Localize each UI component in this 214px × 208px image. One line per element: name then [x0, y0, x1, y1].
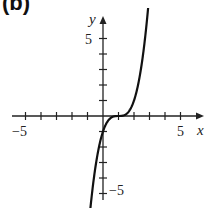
y-tick-label-neg5: −5: [109, 183, 124, 198]
curve: [90, 8, 148, 208]
cubic-plot: −5 5 x 5 −5 y: [0, 0, 214, 208]
x-axis-arrow-icon: [196, 113, 204, 120]
axes: [12, 20, 200, 200]
y-tick-label-5: 5: [85, 32, 92, 47]
y-axis-arrow-icon: [100, 16, 107, 24]
x-axis-label: x: [196, 122, 204, 138]
x-tick-label-5: 5: [177, 124, 184, 139]
y-axis-label: y: [87, 11, 96, 27]
x-tick-label-neg5: −5: [12, 124, 27, 139]
